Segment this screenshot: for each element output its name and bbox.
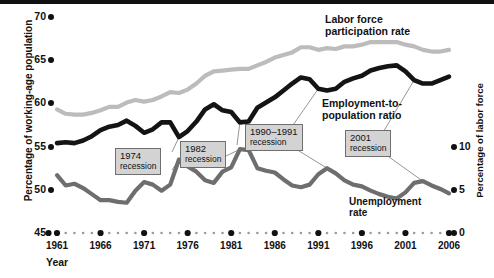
x-axis-minor-tick-dot [178, 232, 181, 235]
y-axis-left-tick-dot-55 [48, 144, 54, 150]
x-axis-minor-tick-dot [160, 232, 163, 235]
y-axis-right-tick-dot-0 [451, 230, 457, 236]
x-axis-major-tick-dot [315, 230, 321, 236]
chart-figure: 706560555045 1050 1961196619711976198119… [0, 0, 494, 278]
x-axis-major-tick-dot [97, 230, 103, 236]
x-axis-minor-tick-dot [422, 232, 425, 235]
leader-1974-to-epop [172, 137, 179, 152]
x-axis-minor-tick-dot [213, 232, 216, 235]
x-axis-dotted-line [45, 230, 452, 236]
x-axis-minor-tick-dot [300, 232, 303, 235]
unemp-label-line2: rate [349, 207, 367, 218]
x-axis-minor-tick-dot [73, 232, 76, 235]
x-axis-tick-1961: 1961 [37, 240, 77, 251]
x-axis-origin-dot [45, 230, 51, 236]
x-axis-minor-tick-dot [152, 232, 155, 235]
x-axis-tick-1981: 1981 [211, 240, 251, 251]
x-axis-minor-tick-dot [334, 232, 337, 235]
x-axis-tick-2001: 2001 [385, 240, 425, 251]
x-axis-minor-tick-dot [221, 232, 224, 235]
x-axis-minor-tick-dot [326, 232, 329, 235]
x-axis-major-tick-dot [54, 230, 60, 236]
x-axis-minor-tick-dot [439, 232, 442, 235]
x-axis-tick-1991: 1991 [298, 240, 338, 251]
x-axis-minor-tick-dot [256, 232, 259, 235]
x-axis-tick-1966: 1966 [81, 240, 121, 251]
x-axis-minor-tick-dot [108, 232, 111, 235]
callout-1990-1991-recession: 1990–1991 recession [245, 124, 303, 151]
series-label-unemployment-rate: Unemployment rate [349, 196, 421, 218]
callout-2001-recession: 2001 recession [345, 130, 391, 157]
leader-1982-to-epop [237, 122, 240, 145]
lfpr-label-line1: Labor force [325, 13, 383, 25]
x-axis-tick-1986: 1986 [255, 240, 295, 251]
series-label-labor-force-participation-rate: Labor force participation rate [325, 14, 410, 38]
callout-2001-word: recession [350, 144, 386, 154]
x-axis-major-tick-dot [228, 230, 234, 236]
callout-1982-recession: 1982 recession [180, 141, 226, 168]
x-axis-minor-tick-dot [387, 232, 390, 235]
callout-1974-recession: 1974 recession [115, 148, 161, 175]
y-axis-left-title: Percentage of working-age population [23, 11, 34, 211]
x-axis-minor-tick-dot [430, 232, 433, 235]
epop-label-line2: population ratio [322, 109, 401, 121]
x-axis-minor-tick-dot [369, 232, 372, 235]
x-axis-minor-tick-dot [395, 232, 398, 235]
x-axis-minor-tick-dot [195, 232, 198, 235]
x-axis-minor-tick-dot [64, 232, 67, 235]
x-axis-major-tick-dot [141, 230, 147, 236]
x-axis-minor-tick-dot [378, 232, 381, 235]
callout-1990-word: recession [250, 138, 298, 148]
unemp-label-line1: Unemployment [349, 196, 421, 207]
x-axis-minor-tick-dot [125, 232, 128, 235]
x-axis-major-tick-dot [359, 230, 365, 236]
x-axis-minor-tick-dot [291, 232, 294, 235]
series-label-employment-to-population-ratio: Employment-to- population ratio [322, 98, 402, 122]
lfpr-label-line2: participation rate [325, 25, 410, 37]
x-axis-minor-tick-dot [239, 232, 242, 235]
series-lines [57, 42, 449, 203]
leader-1990-to-epop [291, 89, 318, 128]
callout-1982-word: recession [185, 155, 221, 165]
y-axis-left-tick-45: 45 [24, 226, 46, 238]
x-axis-tick-1976: 1976 [168, 240, 208, 251]
callout-1974-word: recession [120, 162, 156, 172]
x-axis-title: Year [46, 256, 68, 268]
x-axis-minor-tick-dot [169, 232, 172, 235]
x-axis-minor-tick-dot [265, 232, 268, 235]
x-axis-minor-tick-dot [247, 232, 250, 235]
y-axis-right-tick-dot-5 [451, 187, 457, 193]
x-axis-minor-tick-dot [117, 232, 120, 235]
x-axis-minor-tick-dot [204, 232, 207, 235]
y-axis-right-tick-dot-10 [451, 144, 457, 150]
x-axis-minor-tick-dot [413, 232, 416, 235]
x-axis-tick-1971: 1971 [124, 240, 164, 251]
x-axis-minor-tick-dot [91, 232, 94, 235]
x-axis-minor-tick-dot [82, 232, 85, 235]
x-axis-minor-tick-dot [282, 232, 285, 235]
x-axis-major-tick-dot [402, 230, 408, 236]
x-axis-minor-tick-dot [308, 232, 311, 235]
y-axis-right-title: Percentage of labor force [474, 51, 485, 231]
x-axis-minor-tick-dot [134, 232, 137, 235]
y-axis-left-tick-dot-70 [48, 14, 54, 20]
y-axis-left-tick-dot-50 [48, 187, 54, 193]
x-axis-major-tick-dot [272, 230, 278, 236]
x-axis-tick-1996: 1996 [342, 240, 382, 251]
x-axis-major-tick-dot [185, 230, 191, 236]
x-axis-minor-tick-dot [343, 232, 346, 235]
x-axis-minor-tick-dot [352, 232, 355, 235]
x-axis-tick-2006: 2006 [429, 240, 469, 251]
epop-label-line1: Employment-to- [322, 97, 402, 109]
